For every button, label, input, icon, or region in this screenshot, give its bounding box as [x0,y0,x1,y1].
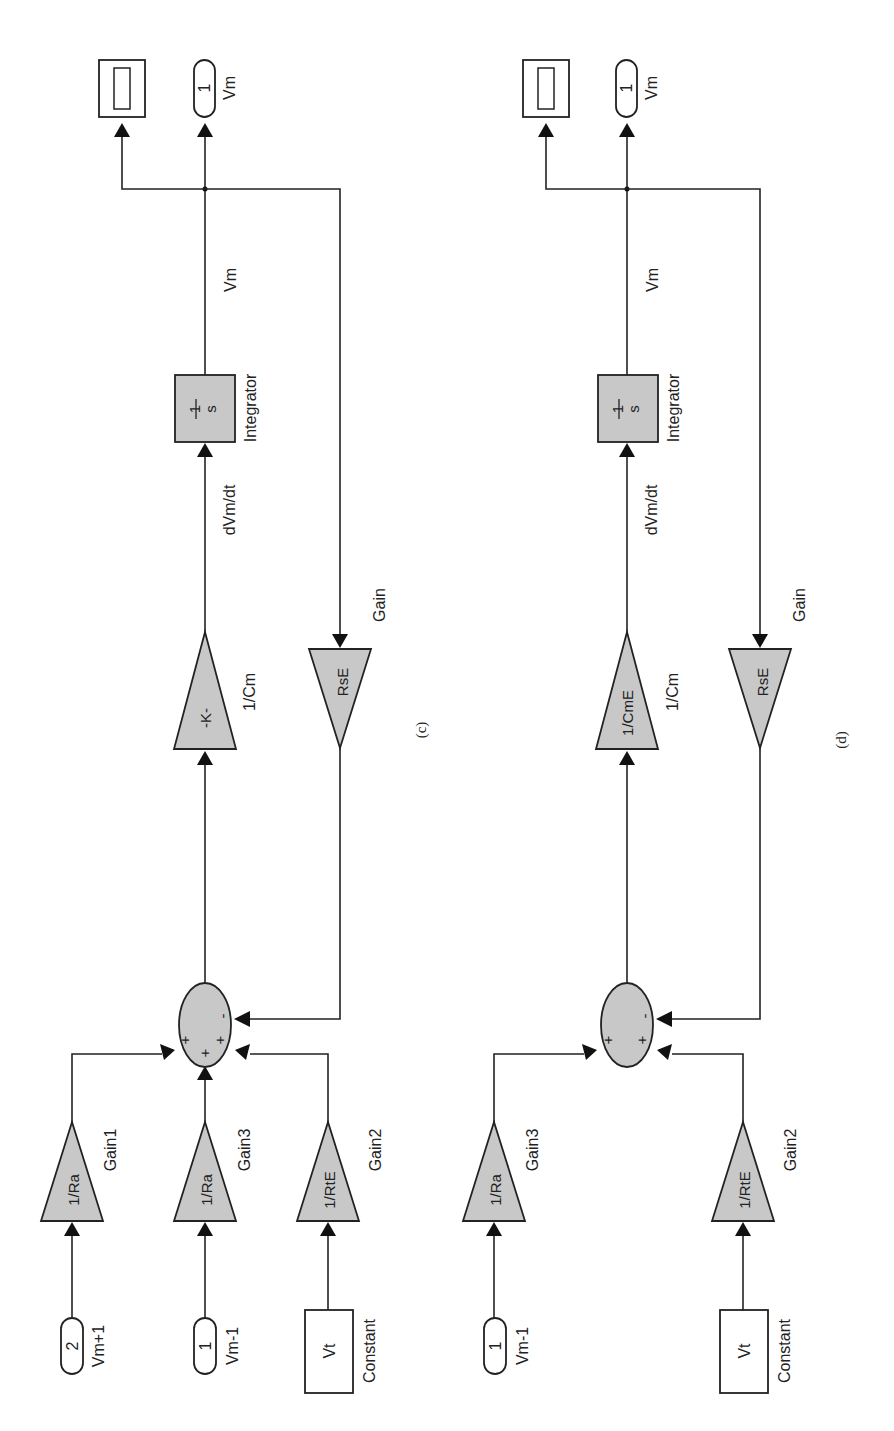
outport-number: 1 [618,83,635,92]
sum-sign: + [176,1035,193,1044]
outport-label: Vm [221,76,238,100]
gain-value: 1/Ra [198,1174,215,1206]
diagram-c: 2 Vm+1 1 Vm-1 Vt Constant 1/Ra Gain1 [41,60,430,1393]
gain-value: 1/RtE [321,1171,338,1209]
gain-feedback-block[interactable]: RsE Gain [729,588,808,748]
signal-label-vm: Vm [222,268,239,292]
gain-label: Gain3 [236,1129,253,1172]
caption-c: (c) [413,722,430,739]
scope-block[interactable] [523,60,569,117]
gain-value: RsE [754,668,771,696]
constant-label: Constant [776,1318,793,1383]
constant-block[interactable]: Vt Constant [305,1310,378,1393]
gain1-block[interactable]: 1/Ra Gain1 [41,1122,119,1221]
sum-sign: + [599,1035,616,1044]
gain-value: RsE [334,668,351,696]
inport-vm-minus-1[interactable]: 1 Vm-1 [484,1318,531,1374]
gain-label: Gain [371,588,388,622]
gain-label: Gain3 [524,1129,541,1172]
gain-value: 1/RtE [736,1171,753,1209]
outport-vm[interactable]: 1 Vm [194,60,238,117]
inport-number: 1 [487,1341,504,1350]
inport-label: Vm+1 [90,1325,107,1367]
gain3-block[interactable]: 1/Ra Gain3 [174,1122,253,1221]
gain-value: 1/Ra [65,1174,82,1206]
inport-number: 1 [197,1341,214,1350]
inport-label: Vm-1 [514,1327,531,1365]
sum-block[interactable]: + + + - [176,983,231,1067]
gain2-block[interactable]: 1/RtE Gain2 [297,1122,384,1221]
integrator-denominator: s [202,405,219,413]
sum-block[interactable]: + + - [599,983,653,1067]
scope-block[interactable] [99,60,145,117]
inport-vm-minus-1[interactable]: 1 Vm-1 [194,1318,241,1374]
inport-vm-plus-1[interactable]: 2 Vm+1 [61,1318,107,1374]
gain-label: 1/Cm [664,673,681,711]
gain-cm-block[interactable]: 1/CmE 1/Cm [596,632,681,749]
integrator-denominator: s [625,405,642,413]
constant-value: Vt [321,1343,338,1359]
gain3-block[interactable]: 1/Ra Gain3 [463,1122,541,1221]
constant-label: Constant [361,1318,378,1383]
signal-label-dvm-dt: dVm/dt [643,484,660,535]
sum-sign: + [633,1035,650,1044]
integrator-numerator: 1 [609,405,626,413]
sum-sign: + [196,1048,213,1057]
gain2-block[interactable]: 1/RtE Gain2 [712,1122,799,1221]
sum-sign: + [211,1035,228,1044]
gain-value: -K- [197,708,214,728]
outport-label: Vm [643,76,660,100]
outport-vm[interactable]: 1 Vm [616,60,660,117]
gain-value: 1/Ra [487,1174,504,1206]
caption-d: (d) [833,731,850,749]
gain-cm-block[interactable]: -K- 1/Cm [174,632,258,749]
integrator-label: Integrator [242,373,259,442]
gain-label: Gain1 [102,1129,119,1172]
gain-label: Gain2 [782,1129,799,1172]
inport-number: 2 [64,1341,81,1350]
gain-feedback-block[interactable]: RsE Gain [309,588,388,748]
signal-label-vm: Vm [644,268,661,292]
integrator-block[interactable]: 1 s Integrator [598,373,682,442]
sum-sign: - [214,1014,231,1019]
gain-label: Gain2 [367,1129,384,1172]
gain-label: Gain [791,588,808,622]
sum-sign: - [636,1014,653,1019]
simulink-figure: 2 Vm+1 1 Vm-1 Vt Constant 1/Ra Gain1 [0,0,894,1431]
outport-number: 1 [196,83,213,92]
signal-label-dvm-dt: dVm/dt [221,484,238,535]
constant-value: Vt [736,1343,753,1359]
inport-label: Vm-1 [224,1327,241,1365]
integrator-numerator: 1 [186,405,203,413]
integrator-block[interactable]: 1 s Integrator [175,373,259,442]
constant-block[interactable]: Vt Constant [720,1310,793,1393]
gain-label: 1/Cm [241,673,258,711]
integrator-label: Integrator [665,373,682,442]
diagram-d: 1 Vm-1 Vt Constant 1/Ra Gain3 1/RtE Gain… [463,60,850,1393]
gain-value: 1/CmE [619,690,636,736]
